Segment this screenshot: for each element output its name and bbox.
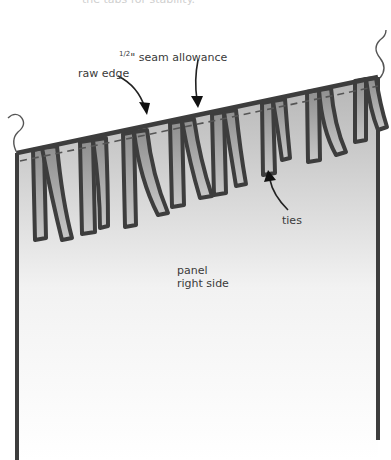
- tie: [212, 112, 226, 195]
- ties-label: ties: [282, 214, 302, 227]
- panel-label-line2: right side: [177, 277, 229, 290]
- tie: [80, 140, 95, 234]
- seam-allowance-label: 1/2" seam allowance: [119, 48, 227, 64]
- panel-illustration: [0, 0, 391, 460]
- raw-edge-label: raw edge: [78, 67, 129, 80]
- top-caption-cutoff: the tabs for stability.: [82, 0, 195, 6]
- thread-left-icon: [8, 114, 24, 153]
- sewing-diagram: the tabs for stability.: [0, 0, 391, 460]
- tie: [170, 121, 184, 207]
- arrowhead-raw-edge-icon: [139, 102, 150, 115]
- panel-label-line1: panel: [177, 264, 208, 277]
- arrowhead-seam-icon: [191, 96, 203, 108]
- arrow-seam: [196, 60, 198, 100]
- tie: [123, 132, 136, 227]
- thread-right-icon: [376, 30, 386, 78]
